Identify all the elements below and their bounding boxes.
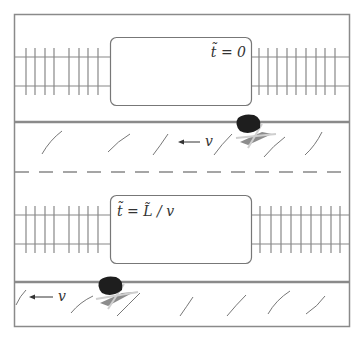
- time-label-bottom: t̃ = L̃ / v: [117, 201, 174, 219]
- road-marks-top: [42, 131, 322, 157]
- train-car-diagram: t̃ = 0 v: [0, 0, 360, 338]
- velocity-arrow-top: v: [178, 133, 213, 149]
- track-right-bottom: [252, 206, 349, 253]
- velocity-arrow-bottom: v: [29, 288, 66, 304]
- top-panel: t̃ = 0 v: [15, 38, 349, 158]
- track-right-top: [252, 48, 349, 95]
- velocity-label-bottom: v: [58, 288, 66, 304]
- car-top: [236, 114, 276, 148]
- time-label-top: t̃ = 0: [211, 42, 246, 60]
- bottom-panel: t̃ = L̃ / v v: [15, 196, 349, 317]
- track-left-bottom: [15, 206, 110, 253]
- track-left-top: [15, 48, 110, 95]
- velocity-label-top: v: [205, 133, 213, 149]
